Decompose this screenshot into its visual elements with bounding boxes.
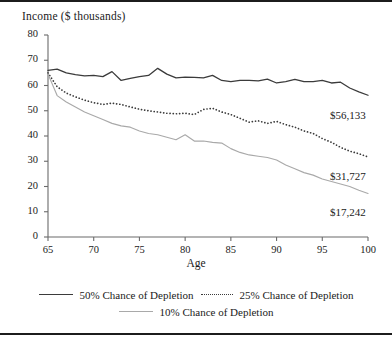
y-tick-label: 10 [16, 205, 38, 216]
legend-item-1-r1[interactable]: 50% Chance of Depletion [39, 289, 194, 301]
endpoint-label-series10: $17,242 [330, 206, 366, 218]
axes-group [44, 35, 368, 241]
endpoint-label-series25: $31,727 [330, 170, 366, 182]
y-tick-label: 40 [16, 129, 38, 140]
y-tick-label: 20 [16, 180, 38, 191]
legend-label: 25% Chance of Depletion [240, 289, 354, 301]
y-tick-label: 80 [16, 28, 38, 39]
x-tick-label: 75 [124, 244, 154, 255]
legend-row-secondary: 10% Chance of Depletion [0, 303, 392, 320]
x-axis-label: Age [0, 257, 392, 269]
y-tick-label: 30 [16, 154, 38, 165]
chart-legend: 50% Chance of Depletion25% Chance of Dep… [0, 286, 392, 320]
y-tick-label: 60 [16, 79, 38, 90]
x-tick-label: 100 [353, 244, 383, 255]
x-tick-label: 85 [216, 244, 246, 255]
legend-label: 10% Chance of Depletion [160, 306, 274, 318]
legend-swatch-icon [201, 294, 233, 295]
endpoint-label-series50: $56,133 [330, 109, 366, 121]
y-tick-label: 50 [16, 104, 38, 115]
legend-item-1-r2[interactable]: 10% Chance of Depletion [119, 306, 274, 318]
x-tick-label: 65 [33, 244, 63, 255]
legend-label: 50% Chance of Depletion [80, 289, 194, 301]
x-tick-label: 90 [262, 244, 292, 255]
legend-swatch-icon [39, 294, 73, 295]
series-group [48, 68, 368, 193]
chart-figure: Income ($ thousands) 01020304050607080 6… [0, 0, 392, 340]
x-tick-label: 95 [307, 244, 337, 255]
series-line-1 [48, 68, 368, 95]
y-tick-label: 70 [16, 53, 38, 64]
legend-swatch-icon [119, 311, 153, 312]
legend-item-2-r1[interactable]: 25% Chance of Depletion [201, 289, 354, 301]
series-line-3 [48, 74, 368, 193]
x-tick-label: 70 [79, 244, 109, 255]
x-tick-label: 80 [170, 244, 200, 255]
series-line-2 [48, 73, 368, 157]
legend-row-primary: 50% Chance of Depletion25% Chance of Dep… [0, 286, 392, 303]
y-tick-label: 0 [16, 230, 38, 241]
